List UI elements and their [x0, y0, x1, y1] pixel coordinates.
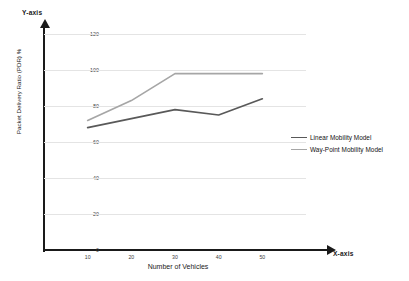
plot-area	[44, 34, 306, 250]
chart-container: Y-axis X-axis Packet Delivery Ratio (PDR…	[0, 0, 409, 281]
x-axis-label: Number of Vehicles	[118, 263, 238, 270]
y-axis-arrow-icon	[40, 19, 50, 28]
x-axis-arrow-icon	[327, 245, 336, 255]
x-tick-label: 10	[73, 254, 103, 260]
legend: Linear Mobility ModelWay-Point Mobility …	[291, 134, 407, 158]
x-axis-title: X-axis	[333, 250, 354, 257]
series-line	[88, 74, 263, 121]
y-axis-title: Y-axis	[22, 9, 42, 16]
legend-swatch	[291, 137, 307, 139]
legend-item: Linear Mobility Model	[291, 134, 407, 141]
legend-label: Linear Mobility Model	[310, 134, 371, 141]
legend-label: Way-Point Mobility Model	[310, 146, 383, 153]
series-line	[88, 99, 263, 128]
y-axis-label: Packet Delivery Ratio (PDR) %	[15, 32, 22, 152]
legend-item: Way-Point Mobility Model	[291, 146, 407, 153]
legend-swatch	[291, 149, 307, 151]
x-tick-label: 40	[204, 254, 234, 260]
x-tick-label: 20	[116, 254, 146, 260]
x-tick-label: 30	[160, 254, 190, 260]
series-lines	[44, 34, 306, 250]
x-tick-label: 50	[247, 254, 277, 260]
